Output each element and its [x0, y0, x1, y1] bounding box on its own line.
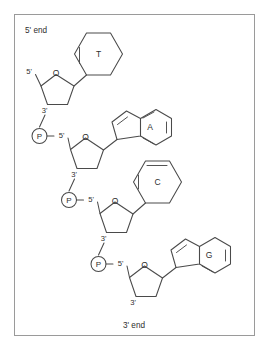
five-prime-bond-1 — [36, 75, 42, 87]
five-prime-bond-3 — [98, 202, 101, 214]
five-prime-end-label: 5' end — [25, 26, 47, 35]
five-prime-label-4: 5' — [118, 259, 124, 268]
adenine-imidazole-double-bond — [118, 117, 128, 125]
guanine-imidazole-ring — [171, 239, 200, 268]
three-prime-label-2: 3' — [71, 170, 77, 179]
five-prime-bond-2 — [68, 138, 71, 150]
glycosidic-bond-thymine — [74, 75, 87, 86]
nucleotide-thymine: T O 5' 3' — [26, 33, 122, 127]
three-prime-label-3: 3' — [101, 234, 107, 243]
adenine-double-bond-c — [143, 112, 154, 118]
base-label-cytosine: C — [154, 177, 160, 187]
glycosidic-bond-adenine — [104, 140, 118, 151]
adenine-imidazole-ring — [112, 111, 141, 140]
guanine-double-bond-b — [202, 266, 213, 272]
three-prime-label-1: 3' — [42, 106, 48, 115]
furanose-pentagon-3 — [100, 202, 133, 233]
five-prime-label-1: 5' — [26, 67, 32, 76]
three-prime-to-phosphate-bond-2 — [69, 179, 75, 191]
furanose-pentagon-1 — [41, 75, 74, 105]
phosphate-label-3: P — [96, 260, 101, 269]
three-prime-to-phosphate-bond-3 — [99, 243, 105, 255]
sugar-oxygen-label-2: O — [82, 132, 89, 142]
nucleotide-guanine: P 5' O 3' G — [91, 238, 231, 307]
guanine-imidazole-double-bond — [177, 245, 187, 253]
adenine-double-bond-b — [143, 138, 154, 144]
dna-structure-diagram: 5' end T O 5' 3' — [0, 0, 269, 351]
three-prime-label-4: 3' — [130, 298, 136, 307]
glycosidic-bond-cytosine — [133, 203, 146, 214]
nucleotide-cytosine: P 5' O 3' C — [62, 161, 182, 255]
sugar-oxygen-label-1: O — [53, 68, 60, 78]
base-label-guanine: G — [206, 250, 213, 260]
nucleotide-adenine: P 5' O 3' — [32, 110, 172, 192]
sugar-ring-thymine — [41, 75, 74, 105]
furanose-pentagon-2 — [71, 138, 104, 169]
three-prime-end-label: 3' end — [123, 321, 145, 330]
dna-strand-figure: 5' end T O 5' 3' — [0, 0, 269, 351]
furanose-pentagon-4 — [130, 266, 163, 297]
base-ring-guanine — [171, 238, 231, 274]
phosphate-label-2: P — [66, 196, 71, 205]
five-prime-label-3: 5' — [88, 195, 94, 204]
glycosidic-bond-guanine — [163, 268, 177, 279]
sugar-oxygen-label-4: O — [141, 260, 148, 270]
sugar-oxygen-label-3: O — [112, 196, 119, 206]
base-ring-adenine — [112, 110, 172, 146]
base-label-adenine: A — [147, 122, 153, 132]
five-prime-label-2: 5' — [59, 131, 65, 140]
three-prime-to-phosphate-bond-1 — [40, 115, 46, 127]
base-label-thymine: T — [96, 49, 101, 59]
phosphate-label-1: P — [37, 132, 42, 141]
five-prime-bond-4 — [127, 266, 130, 278]
